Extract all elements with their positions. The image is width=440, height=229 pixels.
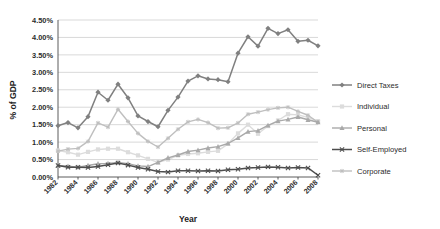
y-tick-label: 3.50% [32, 51, 53, 60]
data-point [196, 117, 200, 121]
x-tick-label: 1990 [122, 178, 140, 196]
y-tick-label: 2.50% [32, 85, 53, 94]
legend-item-self-employed[interactable]: Self-Employed [332, 145, 406, 154]
data-point [116, 107, 120, 111]
data-point [86, 139, 90, 143]
y-tick-label: 3.00% [32, 68, 53, 77]
data-point [236, 131, 240, 135]
x-tick-label: 2000 [222, 178, 240, 196]
data-point [266, 108, 270, 112]
data-point [275, 31, 280, 36]
chart-legend: Direct TaxesIndividualPersonalSelf-Emplo… [332, 81, 406, 176]
x-tick-label: 1988 [102, 178, 120, 196]
x-axis-title: Year [179, 214, 198, 224]
data-point [206, 150, 210, 154]
data-point [226, 126, 230, 130]
data-point [296, 109, 300, 113]
x-tick-label: 2004 [262, 178, 280, 196]
data-point [56, 149, 60, 153]
data-point [96, 147, 100, 151]
data-point [286, 105, 290, 109]
data-point [136, 153, 140, 157]
x-tick-label: 1986 [82, 178, 100, 196]
gridlines [58, 20, 318, 160]
data-point [146, 139, 150, 143]
legend-label: Self-Employed [357, 145, 406, 154]
x-tick-label: 2008 [302, 178, 320, 196]
data-point [96, 121, 100, 125]
data-point [146, 157, 150, 161]
chart-container: 0.00%0.50%1.00%1.50%2.00%2.50%3.00%3.50%… [0, 0, 440, 229]
series-corporate [56, 105, 320, 153]
y-tick-label: 4.00% [32, 33, 53, 42]
data-point [126, 119, 130, 123]
x-tick-label: 2006 [282, 178, 300, 196]
legend-marker [340, 104, 344, 108]
data-point [136, 131, 140, 135]
data-point [286, 112, 290, 116]
x-tick-label: 1984 [62, 178, 80, 196]
data-point [126, 150, 130, 154]
data-point [76, 153, 80, 157]
y-tick-label: 1.50% [32, 120, 53, 129]
legend-marker [340, 169, 344, 173]
data-point [206, 120, 210, 124]
y-tick-label: 0.50% [32, 155, 53, 164]
data-point [246, 123, 250, 127]
data-point [86, 150, 90, 154]
data-point [106, 125, 110, 129]
y-tick-label: 2.00% [32, 103, 53, 112]
legend-item-corporate[interactable]: Corporate [332, 167, 391, 176]
y-tick-label: 1.00% [32, 138, 53, 147]
line-chart: 0.00%0.50%1.00%1.50%2.00%2.50%3.00%3.50%… [0, 0, 440, 229]
data-point [276, 106, 280, 110]
legend-item-individual[interactable]: Individual [332, 102, 389, 111]
data-point [215, 77, 220, 82]
data-point [106, 147, 110, 151]
x-tick-label: 1992 [142, 178, 160, 196]
data-point [216, 149, 220, 153]
data-point [216, 126, 220, 130]
legend-label: Individual [357, 102, 389, 111]
data-point [166, 136, 170, 140]
x-tick-label: 1998 [202, 178, 220, 196]
data-point [256, 110, 260, 114]
y-axis-title: % of GDP [8, 80, 18, 119]
data-point [225, 79, 230, 84]
data-point [306, 113, 310, 117]
data-point [156, 145, 160, 149]
legend-label: Corporate [357, 167, 391, 176]
legend-item-personal[interactable]: Personal [332, 124, 387, 133]
data-point [246, 112, 250, 116]
legend-label: Direct Taxes [357, 81, 399, 90]
legend-label: Personal [357, 124, 387, 133]
legend-marker [339, 82, 344, 87]
x-tick-label: 1994 [162, 178, 180, 196]
data-point [195, 73, 200, 78]
y-tick-label: 4.50% [32, 16, 53, 25]
data-point [66, 147, 70, 151]
y-axis-tick-labels: 0.00%0.50%1.00%1.50%2.00%2.50%3.00%3.50%… [32, 16, 53, 182]
series-line [58, 28, 318, 127]
data-point [76, 146, 80, 150]
data-point [205, 76, 210, 81]
data-point [116, 147, 120, 151]
data-point [236, 121, 240, 125]
series-direct-taxes [55, 26, 320, 131]
data-point [55, 123, 60, 128]
x-tick-label: 2002 [242, 178, 260, 196]
series-self-employed [56, 161, 320, 177]
data-point [176, 127, 180, 131]
x-axis-tick-labels: 1982198419861988199019921994199619982000… [42, 178, 320, 196]
x-tick-label: 1996 [182, 178, 200, 196]
series-line [58, 107, 318, 151]
data-point [186, 120, 190, 124]
legend-item-direct-taxes[interactable]: Direct Taxes [332, 81, 399, 90]
data-series-group [55, 26, 320, 178]
